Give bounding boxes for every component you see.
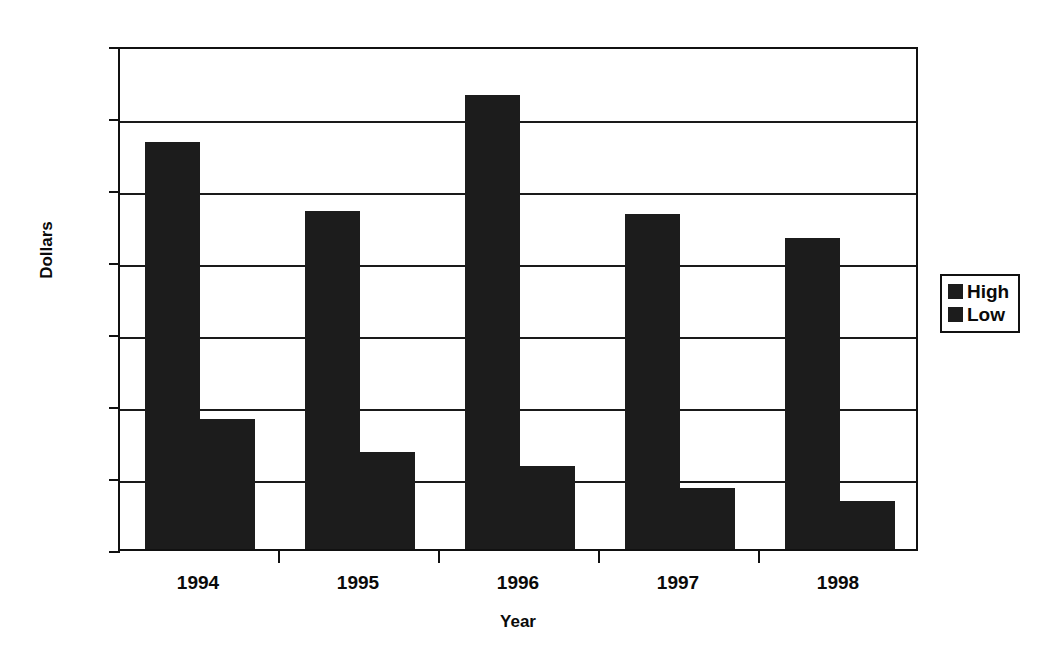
bar-low-1997 — [680, 488, 735, 549]
legend-item-high[interactable]: High — [948, 280, 1009, 303]
bar-high-1997 — [625, 214, 680, 549]
bar-high-1998 — [785, 238, 840, 549]
bar-chart-figure: Dollars 0100200300400500600700 199419951… — [0, 0, 1051, 662]
bar-high-1996 — [465, 95, 520, 549]
x-tick-mark — [758, 551, 760, 563]
x-tick-label-1997: 1997 — [598, 572, 758, 594]
legend-label-low: Low — [967, 305, 1005, 324]
bar-low-1994 — [200, 419, 255, 549]
bar-high-1995 — [305, 211, 360, 549]
y-tick-mark — [109, 551, 120, 553]
x-tick-mark — [278, 551, 280, 563]
y-axis-title: Dollars — [37, 190, 57, 310]
legend-label-high: High — [967, 282, 1009, 301]
x-tick-mark — [598, 551, 600, 563]
legend-swatch-high — [948, 284, 963, 299]
chart-legend: High Low — [940, 274, 1020, 333]
x-tick-label-1994: 1994 — [118, 572, 278, 594]
plot-area — [118, 47, 918, 551]
bar-low-1995 — [360, 452, 415, 549]
x-axis-title: Year — [118, 612, 918, 632]
x-tick-label-1995: 1995 — [278, 572, 438, 594]
x-tick-mark — [438, 551, 440, 563]
bar-high-1994 — [145, 142, 200, 549]
chart-title — [0, 0, 1051, 16]
legend-item-low[interactable]: Low — [948, 303, 1009, 326]
x-tick-label-1998: 1998 — [758, 572, 918, 594]
bar-low-1996 — [520, 466, 575, 549]
x-tick-label-1996: 1996 — [438, 572, 598, 594]
legend-swatch-low — [948, 307, 963, 322]
bar-low-1998 — [840, 501, 895, 549]
